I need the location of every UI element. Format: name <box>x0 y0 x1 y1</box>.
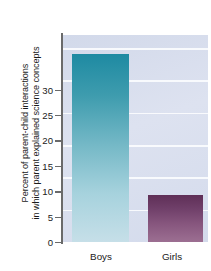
bar-chart-figure: Percent of parent-child interactions in … <box>0 0 211 271</box>
y-axis-tick-labels: 0 5 10 15 20 25 30 <box>25 0 53 271</box>
y-tick-label-25: 25 <box>29 110 53 121</box>
plot-area <box>63 35 208 242</box>
y-tick-label-30: 30 <box>29 84 53 95</box>
x-axis-label-girls: Girls <box>136 251 208 262</box>
y-tick-label-15: 15 <box>29 160 53 171</box>
bar-boys <box>72 54 129 242</box>
bar-girls <box>148 195 203 242</box>
y-tick-label-0: 0 <box>29 237 53 248</box>
gridline-30 <box>63 48 208 50</box>
y-tick-label-5: 5 <box>29 211 53 222</box>
y-tick-label-10: 10 <box>29 186 53 197</box>
y-tick-label-20: 20 <box>29 135 53 146</box>
x-axis-label-boys: Boys <box>63 251 139 262</box>
